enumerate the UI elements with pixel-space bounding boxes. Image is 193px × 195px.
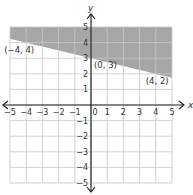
y-axis-label: y (87, 3, 94, 13)
point-label: (4, 2) (146, 76, 169, 86)
x-tick-label: 5 (169, 108, 174, 117)
y-tick-label: −3 (76, 148, 88, 157)
x-tick-label: −4 (20, 108, 32, 117)
x-tick-label: −5 (4, 108, 16, 117)
x-tick-label: 0 (92, 108, 97, 117)
x-tick-label: 2 (121, 108, 126, 117)
y-tick-label: −1 (76, 117, 88, 126)
y-tick-label: −2 (76, 132, 88, 141)
point-label: (0, 3) (94, 60, 117, 70)
y-tick-label: 3 (83, 54, 88, 63)
graph-canvas: xy −5−4−3−2−1012345−5−4−3−2−112345 (−4, … (0, 0, 193, 195)
y-tick-label: 5 (83, 23, 88, 32)
y-tick-label: 2 (83, 70, 88, 79)
x-tick-label: −3 (37, 108, 49, 117)
x-tick-label: 4 (153, 108, 158, 117)
x-tick-label: −2 (53, 108, 65, 117)
x-axis-label: x (187, 100, 193, 110)
coordinate-plane-graph: xy −5−4−3−2−1012345−5−4−3−2−112345 (−4, … (0, 0, 193, 195)
x-tick-label: 3 (137, 108, 142, 117)
y-tick-label: −4 (76, 163, 88, 172)
point-label: (−4, 4) (4, 45, 34, 55)
x-tick-label: 1 (105, 108, 110, 117)
y-tick-label: 1 (83, 85, 88, 94)
y-tick-label: 4 (83, 39, 88, 48)
y-tick-label: −5 (76, 179, 88, 188)
